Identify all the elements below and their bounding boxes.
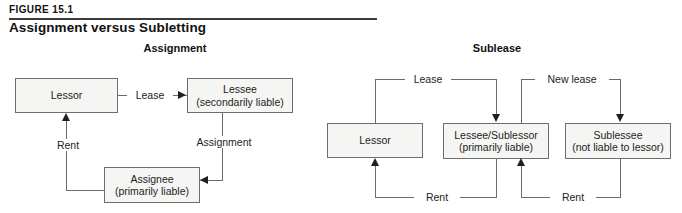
edge-lease-arrowhead xyxy=(178,91,186,99)
edge-rent3-arrowhead xyxy=(517,158,525,166)
edge-lease2-vleft xyxy=(375,79,376,123)
edge-newlease-vright xyxy=(620,79,621,115)
edge-newlease-arrowhead xyxy=(616,114,624,122)
edge-label-rent3: Rent xyxy=(550,191,596,203)
edge-rent3-vleft xyxy=(521,166,522,198)
edge-rent-arrowhead xyxy=(62,113,70,121)
node-lessee-sublabel: (secondarily liable) xyxy=(196,96,284,109)
edge-rent-vline xyxy=(66,121,67,191)
node-lessor-label: Lessor xyxy=(51,89,83,102)
figure-number: FIGURE 15.1 xyxy=(9,4,73,15)
edge-assignment-arrowhead xyxy=(200,176,208,184)
edge-label-assignment: Assignment xyxy=(189,136,259,148)
edge-label-lease2: Lease xyxy=(405,73,451,85)
node-sublessee-sublabel: (not liable to lessor) xyxy=(572,141,664,154)
node-lessor2-label: Lessor xyxy=(359,134,391,147)
node-sublessor: Lessee/Sublessor (primarily liable) xyxy=(443,123,549,159)
panel-title-assignment: Assignment xyxy=(105,42,245,54)
edge-label-rent2: Rent xyxy=(414,191,460,203)
node-sublessor-label: Lessee/Sublessor xyxy=(454,129,537,142)
edge-label-rent: Rent xyxy=(45,139,91,151)
node-assignee-sublabel: (primarily liable) xyxy=(115,185,189,198)
edge-rent2-vright xyxy=(496,159,497,197)
node-assignee: Assignee (primarily liable) xyxy=(104,167,200,203)
edge-lease2-arrowhead xyxy=(492,114,500,122)
edge-rent-hline xyxy=(66,190,105,191)
node-lessor: Lessor xyxy=(15,78,118,113)
node-sublessee: Sublessee (not liable to lessor) xyxy=(565,123,671,159)
edge-label-lease: Lease xyxy=(127,89,173,101)
edge-rent2-arrowhead xyxy=(371,158,379,166)
node-sublessee-label: Sublessee xyxy=(593,129,642,142)
figure-title: Assignment versus Subletting xyxy=(9,20,206,35)
edge-rent2-vleft xyxy=(375,166,376,198)
node-lessor2: Lessor xyxy=(327,123,423,158)
edge-label-newlease: New lease xyxy=(535,73,609,85)
node-assignee-label: Assignee xyxy=(130,173,173,186)
edge-newlease-vleft xyxy=(521,79,522,123)
edge-rent3-vright xyxy=(620,159,621,197)
panel-title-sublease: Sublease xyxy=(437,42,557,54)
node-lessee-label: Lessee xyxy=(223,83,257,96)
edge-lease2-vright xyxy=(496,79,497,115)
node-lessee: Lessee (secondarily liable) xyxy=(187,78,293,113)
node-sublessor-sublabel: (primarily liable) xyxy=(459,141,533,154)
